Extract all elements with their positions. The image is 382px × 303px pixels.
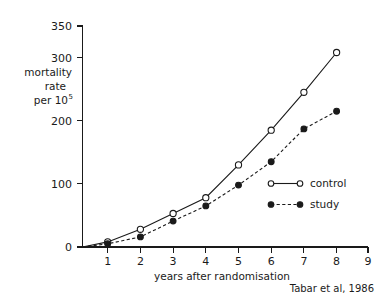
data-point-control-2 (137, 226, 143, 232)
data-point-control-3 (170, 210, 176, 216)
y-axis-tick-labels: 350 300 200 100 0 (51, 20, 72, 254)
series-control (83, 49, 340, 247)
x-axis-tick-labels: 1 2 3 4 5 6 7 8 9 (104, 255, 371, 268)
data-point-control-8 (334, 49, 340, 55)
source-credit: Tabar et al, 1986 (289, 283, 374, 294)
x-tick-label-4: 4 (202, 255, 209, 268)
y-axis-title-line-3: per 10 (34, 94, 68, 106)
axes-group (83, 26, 369, 247)
y-axis-title-line-1: mortality (24, 66, 72, 78)
x-axis-ticks (108, 247, 368, 253)
x-tick-label-2: 2 (137, 255, 144, 268)
y-axis-title-exponent: 5 (69, 93, 73, 101)
x-tick-label-5: 5 (235, 255, 242, 268)
x-tick-label-6: 6 (268, 255, 275, 268)
legend-item-study[interactable]: study (268, 198, 339, 210)
y-tick-label-100: 100 (51, 178, 72, 191)
data-point-study-3 (170, 218, 176, 224)
x-tick-label-9: 9 (365, 255, 372, 268)
legend-item-control[interactable]: control (268, 177, 346, 189)
chart-figure: 350 300 200 100 0 mortality rate per 10 … (0, 0, 382, 303)
series-study-line (83, 111, 337, 247)
data-point-study-8 (334, 108, 340, 114)
data-point-control-7 (301, 89, 307, 95)
chart-legend: control study (268, 177, 346, 210)
y-tick-label-0: 0 (65, 241, 72, 254)
legend-marker-study-left (268, 202, 274, 208)
legend-marker-study-right (297, 202, 303, 208)
data-point-control-4 (203, 195, 209, 201)
legend-label-control: control (310, 177, 346, 189)
x-tick-label-8: 8 (333, 255, 340, 268)
x-tick-label-3: 3 (170, 255, 177, 268)
series-study (83, 108, 340, 247)
data-point-study-6 (268, 159, 274, 165)
data-point-control-5 (235, 162, 241, 168)
y-axis-title-line-2: rate (45, 80, 66, 92)
x-axis-title: years after randomisation (154, 270, 290, 282)
data-point-study-7 (301, 126, 307, 132)
data-point-study-4 (203, 203, 209, 209)
y-axis-ticks (77, 26, 83, 247)
legend-marker-control-right (297, 181, 303, 187)
legend-label-study: study (310, 198, 339, 210)
y-tick-label-200: 200 (51, 115, 72, 128)
data-point-control-6 (268, 127, 274, 133)
x-tick-label-1: 1 (104, 255, 111, 268)
y-tick-label-350: 350 (51, 20, 72, 33)
mortality-rate-line-chart: 350 300 200 100 0 mortality rate per 10 … (0, 0, 382, 303)
data-point-study-2 (138, 234, 144, 240)
y-tick-label-300: 300 (51, 52, 72, 65)
data-point-study-1 (105, 241, 111, 247)
series-control-line (83, 53, 337, 248)
y-axis-title: mortality rate per 10 5 (24, 66, 73, 106)
legend-marker-control-left (268, 181, 274, 187)
data-point-study-5 (236, 182, 242, 188)
x-tick-label-7: 7 (300, 255, 307, 268)
